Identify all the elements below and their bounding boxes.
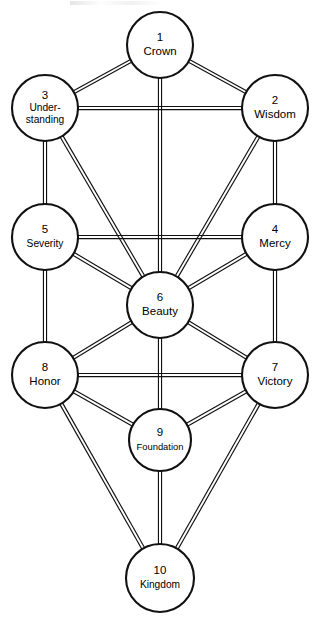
node-mercy[interactable]: 4Mercy — [242, 204, 308, 270]
edge-7-9 — [185, 389, 248, 426]
node-label: Beauty — [142, 305, 178, 317]
node-layer: 1Crown2Wisdom3Under-standing4Mercy5Sever… — [12, 12, 308, 612]
node-label: Under- — [29, 102, 60, 113]
node-severity[interactable]: 5Severity — [12, 204, 78, 270]
node-label: Severity — [27, 238, 65, 249]
node-number: 5 — [42, 223, 48, 235]
node-crown[interactable]: 1Crown — [127, 12, 193, 78]
edge-2-4 — [273, 140, 276, 205]
edge-4-7 — [273, 269, 276, 343]
node-label: Foundation — [137, 441, 184, 452]
node-understanding[interactable]: 3Under-standing — [12, 75, 78, 141]
edge-6-7 — [186, 320, 248, 360]
node-number: 10 — [154, 564, 167, 576]
node-number: 7 — [272, 361, 278, 373]
node-label: Mercy — [259, 237, 291, 249]
node-number: 8 — [42, 361, 48, 373]
node-number: 6 — [157, 291, 163, 303]
edge-5-6 — [72, 252, 134, 290]
edge-7-8 — [77, 373, 243, 376]
node-honor[interactable]: 8Honor — [12, 342, 78, 408]
node-beauty[interactable]: 6Beauty — [127, 272, 193, 338]
edge-4-5 — [77, 235, 243, 238]
edge-4-6 — [187, 252, 249, 290]
node-foundation[interactable]: 9Foundation — [129, 409, 191, 471]
node-label: Wisdom — [254, 108, 296, 120]
edge-5-8 — [43, 269, 46, 343]
node-label: Victory — [258, 375, 293, 387]
node-number: 1 — [157, 31, 163, 43]
edge-8-9 — [72, 389, 135, 426]
node-wisdom[interactable]: 2Wisdom — [242, 75, 308, 141]
node-number: 4 — [272, 223, 279, 235]
edge-9-10 — [158, 470, 161, 545]
node-label: Crown — [143, 45, 176, 57]
node-victory[interactable]: 7Victory — [242, 342, 308, 408]
edge-2-3 — [77, 106, 243, 109]
node-kingdom[interactable]: 10Kingdom — [126, 544, 194, 612]
tree-of-life-diagram: 1Crown2Wisdom3Under-standing4Mercy5Sever… — [0, 0, 319, 623]
node-number: 2 — [272, 94, 278, 106]
node-label: Kingdom — [140, 579, 180, 590]
edge-1-3 — [72, 59, 133, 94]
node-number: 9 — [157, 426, 163, 438]
node-label: Honor — [29, 375, 60, 387]
node-number: 3 — [42, 89, 48, 101]
edge-6-8 — [71, 320, 133, 360]
edge-3-5 — [43, 140, 46, 205]
edge-1-2 — [187, 59, 248, 94]
tree-of-life-svg: 1Crown2Wisdom3Under-standing4Mercy5Sever… — [0, 0, 319, 623]
node-label: standing — [26, 114, 65, 125]
